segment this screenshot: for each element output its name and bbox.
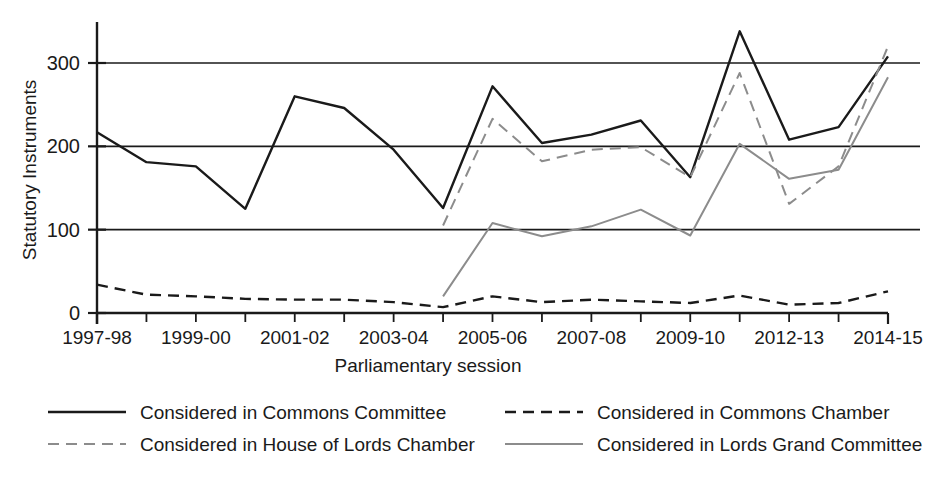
legend-item-3: Considered in Lords Grand Committee — [505, 434, 922, 455]
xtick-label-2005-06: 2005-06 — [458, 327, 528, 348]
xtick-label-1999-00: 1999-00 — [161, 327, 231, 348]
legend-item-0: Considered in Commons Committee — [48, 402, 446, 423]
xtick-labels: 1997-981999-002001-022003-042005-062007-… — [62, 327, 923, 348]
xtick-label-2009-10: 2009-10 — [655, 327, 725, 348]
legend: Considered in Commons CommitteeConsidere… — [48, 402, 922, 455]
axes — [88, 22, 888, 324]
legend-label-2: Considered in House of Lords Chamber — [140, 434, 475, 455]
series-line-2 — [443, 46, 888, 225]
xtick-label-2003-04: 2003-04 — [359, 327, 429, 348]
legend-item-1: Considered in Commons Chamber — [505, 402, 890, 423]
xtick-label-2012-13: 2012-13 — [754, 327, 824, 348]
legend-item-2: Considered in House of Lords Chamber — [48, 434, 475, 455]
ytick-label-300: 300 — [47, 52, 80, 74]
ytick-label-0: 0 — [69, 302, 80, 324]
data-series — [97, 31, 888, 307]
ytick-label-100: 100 — [47, 219, 80, 241]
series-line-1 — [97, 285, 888, 308]
series-line-3 — [443, 77, 888, 296]
xtick-label-2001-02: 2001-02 — [260, 327, 330, 348]
legend-label-3: Considered in Lords Grand Committee — [597, 434, 922, 455]
xtick-label-2014-15: 2014-15 — [853, 327, 923, 348]
xtick-label-2007-08: 2007-08 — [557, 327, 627, 348]
x-axis-title: Parliamentary session — [335, 355, 522, 376]
legend-label-1: Considered in Commons Chamber — [597, 402, 890, 423]
ytick-labels: 0100200300 — [47, 52, 80, 324]
legend-label-0: Considered in Commons Committee — [140, 402, 446, 423]
ytick-label-200: 200 — [47, 135, 80, 157]
chart-canvas: 0100200300 1997-981999-002001-022003-042… — [0, 0, 943, 484]
statutory-instruments-line-chart: 0100200300 1997-981999-002001-022003-042… — [0, 0, 943, 484]
gridlines — [97, 63, 920, 230]
y-axis-title: Statutory Instruments — [19, 80, 40, 261]
xtick-label-1997-98: 1997-98 — [62, 327, 132, 348]
